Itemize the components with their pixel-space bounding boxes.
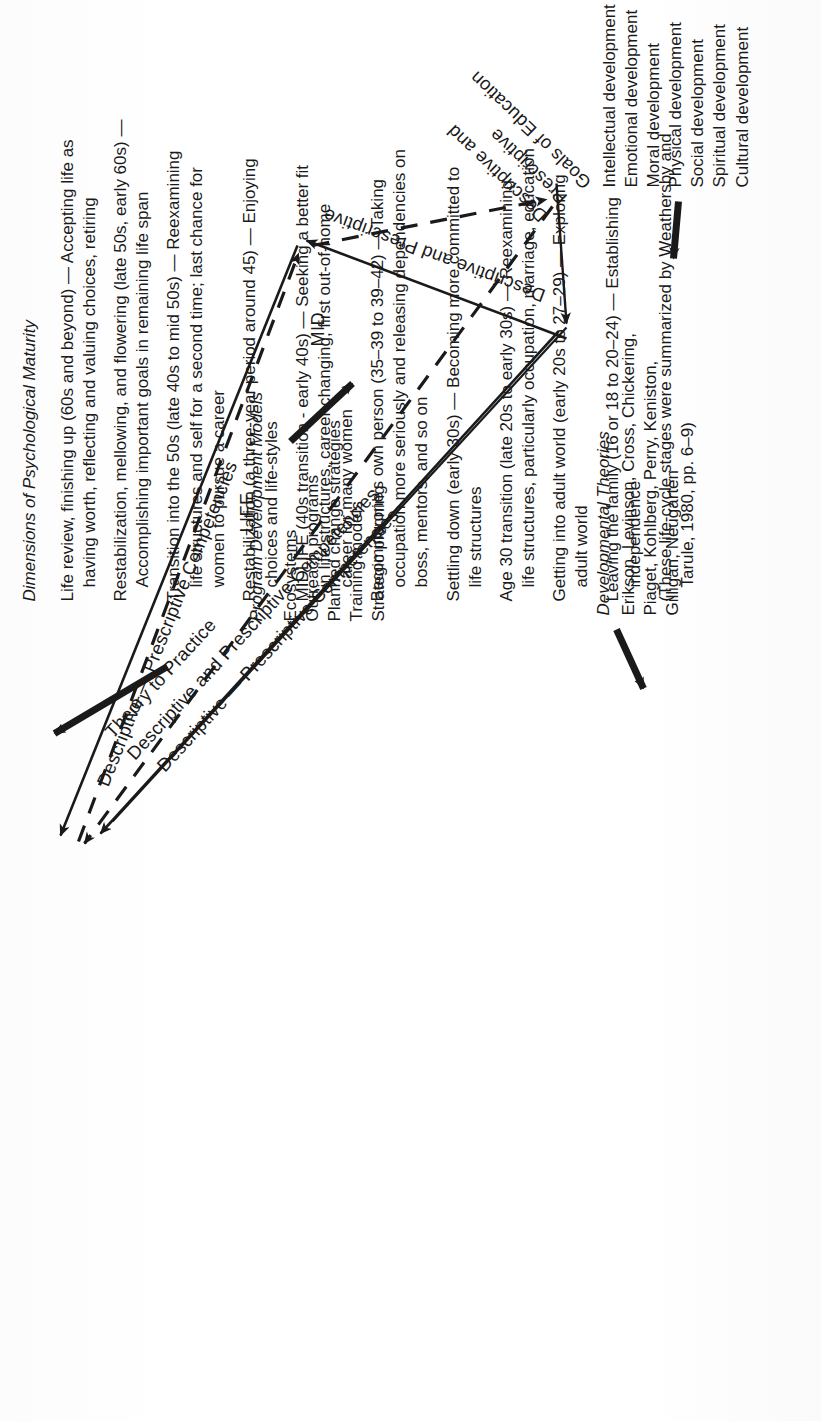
list-item: Erikson, Levinson, Cross, Chickering, [617, 332, 639, 615]
stage-item: Life review, finishing up (60s and beyon… [56, 11, 100, 601]
list-item: Gilligan, Neugarten [661, 332, 683, 615]
zone-label-mid: MID [307, 312, 328, 347]
list-item: Emotional development [620, 4, 642, 187]
zone-label-life: LIFE [236, 492, 257, 532]
maturity-panel-title: Dimensions of Psychological Maturity [18, 11, 40, 601]
list-item: Spiritual development [708, 4, 730, 187]
stage-item: Restabilization, mellowing, and flowerin… [109, 11, 153, 601]
developmental-theories-panel: Developmental Theories Erikson, Levinson… [592, 332, 683, 615]
list-item: Social development [686, 4, 708, 187]
figure-canvas: Dimensions of Psychological Maturity Lif… [0, 0, 821, 1421]
theories-panel-title: Developmental Theories [592, 332, 614, 615]
list-item: Piaget, Kohlberg, Perry, Keniston, [639, 332, 661, 615]
stage-item: Getting into adult world (early 20s to 2… [548, 11, 592, 601]
list-item: Physical development [664, 4, 686, 187]
callout-arrow-theories [616, 629, 643, 688]
stage-item: Settling down (early 30s) — Becoming mor… [442, 11, 486, 601]
goals-of-education-panel: Intellectual development Emotional devel… [598, 4, 753, 187]
list-item: Cultural development [731, 4, 753, 187]
list-item: Moral development [642, 4, 664, 187]
list-item: Intellectual development [598, 4, 620, 187]
